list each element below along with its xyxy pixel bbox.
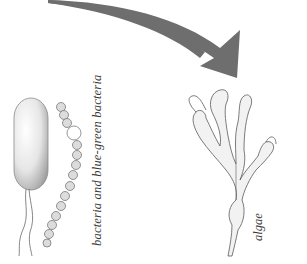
- bacteria-caption: bacteria and blue-green bacteria: [90, 74, 105, 246]
- figure: bacteria and blue-green bacteria algae: [0, 0, 307, 264]
- curved-arrow-icon: [48, 0, 240, 78]
- blue-green-bacteria-chain-illustration: [43, 103, 82, 248]
- bacterium-illustration: [14, 98, 48, 256]
- algae-caption: algae: [251, 213, 266, 241]
